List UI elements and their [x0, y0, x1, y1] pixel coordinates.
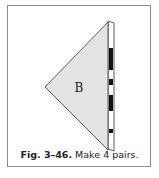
strip-mark — [109, 95, 113, 111]
piece-label: B — [75, 81, 84, 95]
strip-mark — [109, 79, 113, 85]
strip-mark — [109, 48, 113, 70]
caption-number: Fig. 3–46. — [20, 149, 72, 160]
figure-caption: Fig. 3–46. Make 4 pairs. — [0, 149, 159, 160]
caption-text: Make 4 pairs. — [72, 149, 139, 160]
strip-mark — [109, 129, 113, 133]
